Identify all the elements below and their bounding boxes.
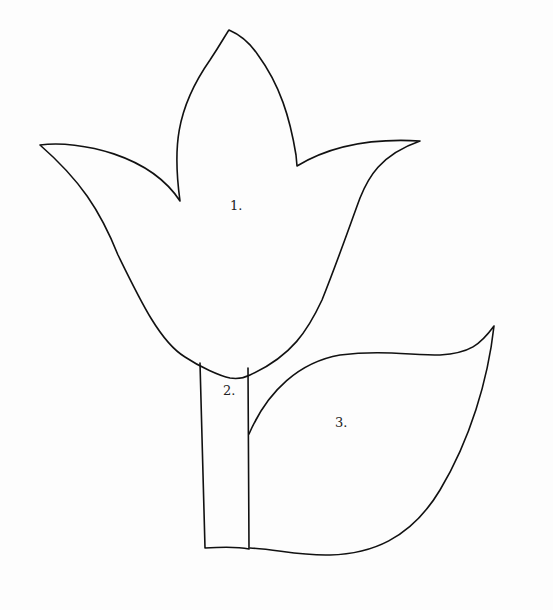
flower-head-label: 1. — [230, 198, 242, 213]
leaf-outline — [249, 326, 494, 555]
stem-label: 2. — [223, 383, 235, 398]
tulip-drawing — [0, 0, 553, 610]
leaf-label: 3. — [335, 415, 347, 430]
